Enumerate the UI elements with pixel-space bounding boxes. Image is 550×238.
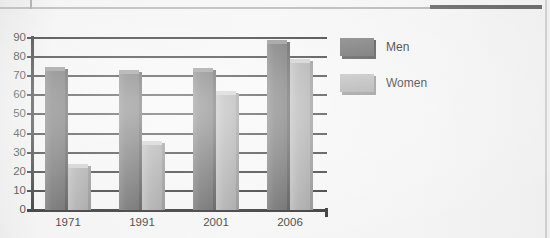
x-tick-label-1991: 1991 (129, 216, 155, 228)
y-tick-label-50: 50 (13, 107, 26, 119)
bar-women-2006 (290, 63, 310, 210)
bar-front-face (216, 95, 236, 210)
bar-men-1971 (45, 71, 65, 211)
bar-men-2001 (193, 72, 213, 210)
bar-women-1971 (68, 168, 88, 210)
y-tick-mark-90 (27, 37, 32, 39)
y-tick-label-90: 90 (13, 31, 26, 43)
y-tick-mark-0 (27, 209, 32, 211)
y-tick-label-10: 10 (13, 184, 26, 196)
y-tick-label-80: 80 (13, 50, 26, 62)
men-swatch (340, 38, 374, 56)
bar-women-1991 (142, 145, 162, 210)
y-axis (31, 36, 34, 212)
y-tick-label-60: 60 (13, 88, 26, 100)
chart-legend: MenWomen (340, 36, 490, 108)
scan-artifact-right-edge (545, 0, 547, 238)
bar-side-face (88, 166, 91, 210)
legend-label: Women (386, 76, 427, 90)
y-tick-label-40: 40 (13, 126, 26, 138)
bar-front-face (68, 168, 88, 210)
y-tick-mark-30 (27, 152, 32, 154)
bar-front-face (290, 63, 310, 210)
bar-front-face (193, 72, 213, 210)
legend-label: Men (386, 40, 409, 54)
y-tick-mark-60 (27, 94, 32, 96)
y-tick-label-20: 20 (13, 165, 26, 177)
women-swatch (340, 74, 374, 92)
legend-item-women: Women (340, 72, 490, 94)
x-axis-right-cap (325, 208, 328, 217)
y-tick-mark-50 (27, 113, 32, 115)
scan-artifact-top-line (0, 7, 434, 9)
y-tick-label-30: 30 (13, 145, 26, 157)
y-tick-mark-80 (27, 56, 32, 58)
x-tick-label-1971: 1971 (55, 216, 81, 228)
bar-men-2006 (267, 44, 287, 210)
y-tick-mark-40 (27, 133, 32, 135)
bar-side-face (310, 61, 313, 210)
scanned-page-background: 9080706050403020100 1971199120012006 Men… (0, 0, 550, 238)
legend-item-men: Men (340, 36, 490, 58)
bar-women-2001 (216, 95, 236, 210)
scan-artifact-top-edge (430, 5, 542, 9)
x-tick-label-2006: 2006 (277, 216, 303, 228)
y-tick-label-0: 0 (20, 203, 26, 215)
bar-front-face (142, 145, 162, 210)
bar-side-face (236, 93, 239, 210)
scan-artifact-tick (30, 0, 32, 9)
y-tick-mark-70 (27, 75, 32, 77)
y-tick-label-70: 70 (13, 69, 26, 81)
bar-chart-plot-area: 9080706050403020100 1971199120012006 (31, 38, 327, 210)
bar-front-face (119, 74, 139, 210)
bar-front-face (267, 44, 287, 210)
gridline-90 (31, 37, 327, 39)
y-tick-mark-10 (27, 190, 32, 192)
bar-side-face (162, 143, 165, 210)
x-tick-label-2001: 2001 (203, 216, 229, 228)
bar-front-face (45, 71, 65, 211)
bar-men-1991 (119, 74, 139, 210)
y-tick-mark-20 (27, 171, 32, 173)
